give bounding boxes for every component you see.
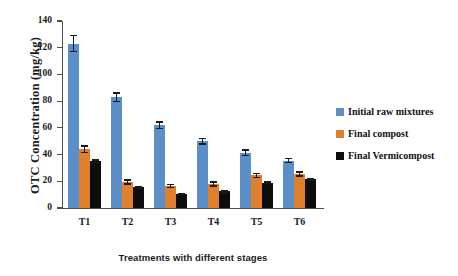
bar bbox=[262, 183, 273, 208]
legend-label: Initial raw mixtures bbox=[348, 106, 433, 117]
error-bar-cap-top bbox=[242, 149, 249, 150]
error-bar-cap-bottom bbox=[285, 162, 292, 163]
error-bar-cap-bottom bbox=[124, 183, 131, 184]
error-bar-cap-bottom bbox=[70, 51, 77, 52]
legend-swatch-icon bbox=[336, 152, 344, 160]
x-tick-label-t6: T6 bbox=[278, 216, 322, 227]
bar bbox=[283, 161, 294, 208]
legend-item[interactable]: Final Vermicompost bbox=[336, 150, 458, 161]
x-axis-title: Treatments with different stages bbox=[62, 252, 324, 263]
error-bar-cap-bottom bbox=[167, 187, 174, 188]
legend-item[interactable]: Final compost bbox=[336, 128, 458, 139]
bar bbox=[111, 97, 122, 208]
error-bar-cap-bottom bbox=[199, 143, 206, 144]
chart-legend: Initial raw mixturesFinal compostFinal V… bbox=[336, 106, 458, 172]
legend-swatch-icon bbox=[336, 130, 344, 138]
error-bar-cap-bottom bbox=[242, 155, 249, 156]
bar bbox=[176, 194, 187, 208]
error-bar-cap-top bbox=[81, 145, 88, 146]
x-tick-label-t3: T3 bbox=[149, 216, 193, 227]
error-bar-cap-top bbox=[285, 158, 292, 159]
bar bbox=[208, 184, 219, 208]
error-bar-cap-bottom bbox=[307, 179, 314, 180]
bar bbox=[79, 149, 90, 208]
error-bar-cap-bottom bbox=[296, 175, 303, 176]
x-tick-label-t2: T2 bbox=[106, 216, 150, 227]
bar-group bbox=[283, 21, 316, 208]
error-bar-cap-top bbox=[92, 159, 99, 160]
error-bar-cap-bottom bbox=[210, 185, 217, 186]
y-tick-label: 100 bbox=[0, 69, 52, 79]
bar bbox=[165, 186, 176, 208]
y-tick-label: 60 bbox=[0, 123, 52, 133]
bar-group bbox=[240, 21, 273, 208]
error-bar-cap-bottom bbox=[221, 191, 228, 192]
error-bar-cap-bottom bbox=[135, 187, 142, 188]
error-bar-cap-bottom bbox=[81, 152, 88, 153]
bar bbox=[90, 161, 101, 208]
error-bar-cap-top bbox=[210, 181, 217, 182]
bar-group bbox=[154, 21, 187, 208]
y-tick-label: 40 bbox=[0, 150, 52, 160]
error-bar-cap-bottom bbox=[113, 101, 120, 102]
bar bbox=[294, 174, 305, 208]
error-bar-cap-top bbox=[296, 171, 303, 172]
bar-chart-figure: OTC Concentration (mg/kg) 02040608010012… bbox=[0, 0, 458, 276]
y-tick-label: 20 bbox=[0, 176, 52, 186]
error-bar-cap-top bbox=[156, 121, 163, 122]
error-bar-cap-top bbox=[253, 173, 260, 174]
legend-label: Final compost bbox=[348, 128, 408, 139]
bar bbox=[219, 191, 230, 208]
error-bar-cap-bottom bbox=[92, 162, 99, 163]
error-bar-cap-top bbox=[167, 184, 174, 185]
y-tick-label: 140 bbox=[0, 16, 52, 26]
bar bbox=[240, 153, 251, 208]
bar bbox=[122, 182, 133, 208]
bar-group bbox=[111, 21, 144, 208]
y-tick-label: 80 bbox=[0, 96, 52, 106]
error-bar-cap-bottom bbox=[264, 183, 271, 184]
legend-swatch-icon bbox=[336, 108, 344, 116]
error-bar bbox=[73, 36, 74, 52]
legend-item[interactable]: Initial raw mixtures bbox=[336, 106, 458, 117]
y-tick-label: 0 bbox=[0, 203, 52, 213]
error-bar-cap-bottom bbox=[156, 128, 163, 129]
x-tick-label-t1: T1 bbox=[63, 216, 107, 227]
legend-label: Final Vermicompost bbox=[348, 150, 434, 161]
x-tick-label-t5: T5 bbox=[235, 216, 279, 227]
bar bbox=[305, 179, 316, 208]
error-bar-cap-top bbox=[113, 92, 120, 93]
error-bar-cap-bottom bbox=[253, 177, 260, 178]
bar bbox=[197, 141, 208, 208]
error-bar-cap-top bbox=[199, 138, 206, 139]
error-bar-cap-bottom bbox=[178, 194, 185, 195]
plot-area bbox=[62, 21, 320, 208]
bar-group bbox=[68, 21, 101, 208]
x-tick-label-t4: T4 bbox=[192, 216, 236, 227]
bar bbox=[251, 175, 262, 208]
error-bar-cap-top bbox=[124, 179, 131, 180]
bar-group bbox=[197, 21, 230, 208]
bar bbox=[133, 187, 144, 208]
bar bbox=[154, 125, 165, 208]
x-axis-line bbox=[62, 208, 324, 209]
y-tick-label: 120 bbox=[0, 43, 52, 53]
error-bar-cap-top bbox=[70, 35, 77, 36]
bar bbox=[68, 44, 79, 208]
